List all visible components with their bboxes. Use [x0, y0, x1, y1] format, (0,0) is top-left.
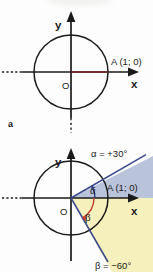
- y-axis-arrowhead: [67, 11, 76, 22]
- y-axis-arrowhead: [67, 148, 76, 159]
- figure-b-directed-angles: y x O A (1; 0) α β α = +30° β = −60°: [0, 136, 153, 272]
- beta-symbol-label: β: [85, 211, 91, 223]
- figure-b-canvas: y x O A (1; 0) α β α = +30° β = −60°: [0, 136, 153, 272]
- point-a-label: A (1; 0): [107, 182, 138, 193]
- y-axis-label: y: [55, 19, 62, 31]
- origin-label: O: [60, 206, 67, 217]
- point-a-label: A (1; 0): [111, 56, 142, 67]
- beta-value-label: β = −60°: [95, 260, 131, 271]
- origin-label: O: [62, 80, 69, 91]
- y-axis-label: y: [55, 156, 62, 168]
- x-axis-label: x: [131, 205, 138, 217]
- figure-page: y x O A (1; 0) a: [0, 0, 153, 272]
- figure-a-canvas: y x O A (1; 0): [0, 0, 153, 136]
- x-axis-label: x: [131, 78, 138, 90]
- alpha-value-label: α = +30°: [91, 148, 127, 159]
- alpha-symbol-label: α: [90, 185, 96, 196]
- figure-a-caption: a: [8, 119, 13, 129]
- x-axis-arrowhead: [128, 68, 139, 77]
- figure-a-unit-circle: y x O A (1; 0) a: [0, 0, 153, 136]
